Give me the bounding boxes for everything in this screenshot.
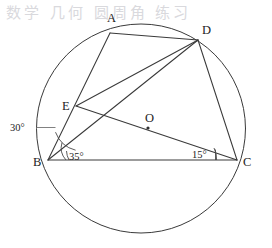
circle-outline [37, 24, 246, 233]
segment-DB [48, 40, 198, 160]
point-label-E: E [62, 99, 70, 113]
angle-label-30: 30° [10, 122, 25, 133]
center-point-dot [146, 126, 149, 129]
background-watermark-text: 数学 几何 圆周角 练习 [6, 4, 191, 22]
point-label-B: B [33, 155, 41, 169]
angle-label-15: 15° [192, 149, 207, 160]
point-label-D: D [202, 23, 211, 37]
angle-arc-b-outer [56, 132, 76, 150]
angle-label-35: 35° [69, 151, 84, 162]
point-label-A: A [107, 11, 116, 25]
segment-DE [76, 40, 198, 106]
circle-diagram-canvas: 数学 几何 圆周角 练习 A D E B C O 30° 35° [0, 0, 272, 248]
segment-EC [76, 106, 237, 160]
point-label-C: C [243, 155, 251, 169]
segment-AB [48, 33, 110, 160]
geometry-figure: 数学 几何 圆周角 练习 A D E B C O 30° 35° [0, 0, 272, 248]
point-label-O: O [145, 111, 154, 125]
